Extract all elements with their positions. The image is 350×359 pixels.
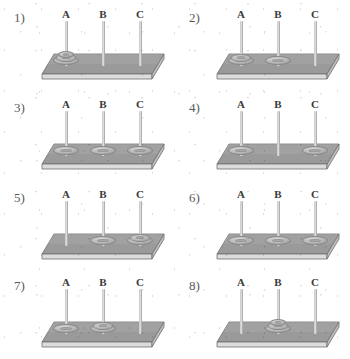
peg-rod-c [314, 289, 317, 334]
disk [53, 146, 79, 155]
peg-label-b: B [274, 276, 281, 288]
hanoi-panel: 8) ABC [175, 268, 350, 359]
panel-number: 7) [14, 278, 25, 294]
disk [265, 56, 291, 65]
peg-label-b: B [274, 8, 281, 20]
peg-label-b: B [99, 8, 106, 20]
peg-label-c: C [311, 276, 319, 288]
peg-label-a: A [237, 276, 245, 288]
hanoi-panel: 7) ABC [0, 268, 175, 359]
disk [130, 234, 151, 242]
hanoi-apparatus: ABC [213, 98, 343, 176]
peg-rod-c [314, 21, 317, 66]
hanoi-apparatus: ABC [38, 188, 168, 266]
disk [127, 146, 153, 155]
panel-number: 6) [189, 190, 200, 206]
peg-label-b: B [99, 188, 106, 200]
panel-number: 1) [14, 10, 25, 26]
peg-rod-b [277, 111, 280, 156]
hanoi-panel: 2) ABC [175, 0, 350, 90]
disk [265, 236, 291, 245]
peg-label-b: B [274, 98, 281, 110]
disk [53, 324, 79, 333]
peg-rod-b [102, 21, 105, 66]
hanoi-panel: 5) ABC [0, 180, 175, 268]
peg-rod-a [240, 289, 243, 334]
hanoi-apparatus: ABC [213, 188, 343, 266]
panel-number: 2) [189, 10, 200, 26]
peg-label-a: A [62, 98, 70, 110]
peg-label-b: B [99, 98, 106, 110]
peg-label-a: A [62, 188, 70, 200]
hanoi-panel: 1) ABC [0, 0, 175, 90]
hanoi-panel: 3) ABC [0, 90, 175, 180]
peg-label-c: C [136, 98, 144, 110]
peg-label-a: A [237, 98, 245, 110]
peg-rod-a [65, 201, 68, 246]
hanoi-apparatus: ABC [213, 276, 343, 354]
disk [231, 54, 252, 62]
peg-label-b: B [274, 188, 281, 200]
panel-number: 4) [189, 100, 200, 116]
peg-rod-c [139, 21, 142, 66]
peg-label-c: C [136, 276, 144, 288]
disk [228, 146, 254, 155]
disk [302, 236, 328, 245]
peg-rod-c [139, 289, 142, 334]
disk [93, 322, 114, 330]
hanoi-panel: 6) ABC [175, 180, 350, 268]
panel-number: 5) [14, 190, 25, 206]
disk [228, 236, 254, 245]
disk [90, 146, 116, 155]
peg-label-c: C [136, 8, 144, 20]
panel-number: 8) [189, 278, 200, 294]
disk [58, 51, 74, 58]
peg-label-b: B [99, 276, 106, 288]
hanoi-panel: 4) ABC [175, 90, 350, 180]
peg-label-c: C [311, 98, 319, 110]
peg-label-a: A [62, 8, 70, 20]
peg-label-a: A [237, 8, 245, 20]
peg-label-c: C [311, 188, 319, 200]
peg-label-c: C [311, 8, 319, 20]
peg-label-a: A [237, 188, 245, 200]
hanoi-apparatus: ABC [213, 8, 343, 86]
peg-label-a: A [62, 276, 70, 288]
disk [302, 146, 328, 155]
hanoi-panel-grid: 1) ABC 2) [0, 0, 350, 359]
disk [90, 236, 116, 245]
disk [270, 319, 286, 326]
peg-label-c: C [136, 188, 144, 200]
hanoi-apparatus: ABC [38, 276, 168, 354]
hanoi-apparatus: ABC [38, 98, 168, 176]
hanoi-apparatus: ABC [38, 8, 168, 86]
panel-number: 3) [14, 100, 25, 116]
